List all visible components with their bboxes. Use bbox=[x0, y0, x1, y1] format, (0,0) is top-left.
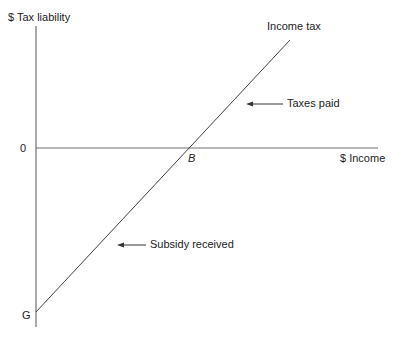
taxes-paid-label: Taxes paid bbox=[287, 98, 340, 109]
y-axis-label: $ Tax liability bbox=[8, 12, 70, 23]
intercept-label: G bbox=[22, 310, 31, 321]
x-axis-label: $ Income bbox=[340, 153, 385, 164]
origin-label: 0 bbox=[20, 143, 26, 154]
income-tax-line-label: Income tax bbox=[267, 21, 321, 32]
subsidy-received-label: Subsidy received bbox=[150, 239, 234, 250]
breakeven-point-label: B bbox=[188, 153, 195, 164]
taxes-paid-arrow bbox=[246, 102, 283, 107]
subsidy-received-arrow bbox=[117, 243, 146, 248]
income-tax-line bbox=[36, 40, 290, 312]
tax-diagram-canvas bbox=[0, 0, 406, 341]
